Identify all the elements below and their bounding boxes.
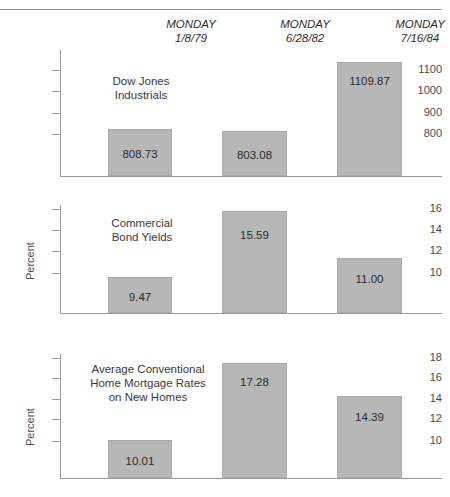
chart-2-tick-label-0: 10 (396, 435, 442, 446)
chart-2-bar-0: 10.01 (108, 440, 172, 478)
chart-2-bar-0-value: 10.01 (109, 455, 171, 467)
chart-2-tick-label-4: 18 (396, 352, 442, 363)
chart-2-bar-1-value: 17.28 (223, 376, 286, 388)
chart-2-y-axis (60, 354, 61, 478)
chart-2-tick-label-2: 14 (396, 393, 442, 404)
chart-2-bar-1: 17.28 (222, 363, 287, 478)
chart-2-y-axis-label: Percent (24, 408, 36, 446)
chart-2-series-label: Average Conventional Home Mortgage Rates… (78, 362, 218, 404)
chart-2-tick-4 (52, 358, 60, 359)
chart-2-bar-2: 14.39 (337, 396, 402, 478)
chart-mortgage-rates: 18 16 14 12 10 Percent Average Conventio… (0, 0, 442, 490)
chart-2-tick-label-1: 12 (396, 413, 442, 424)
chart-2-tick-2 (52, 399, 60, 400)
chart-2-tick-1 (52, 419, 60, 420)
chart-2-tick-3 (52, 378, 60, 379)
chart-2-tick-label-3: 16 (396, 372, 442, 383)
chart-2-tick-0 (52, 441, 60, 442)
chart-2-x-axis (60, 478, 442, 479)
chart-2-bar-2-value: 14.39 (338, 411, 401, 423)
